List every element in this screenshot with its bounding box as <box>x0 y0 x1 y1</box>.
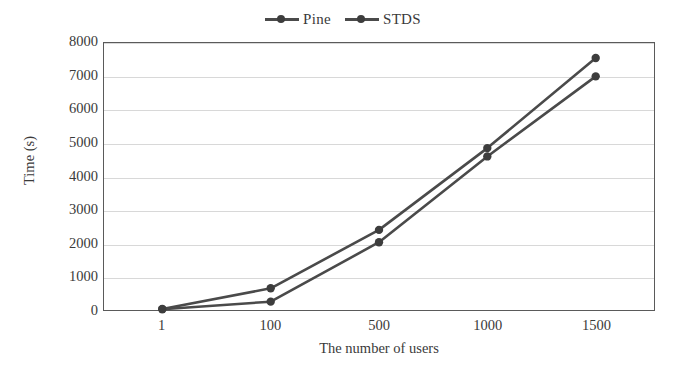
legend-label-pine: Pine <box>303 11 331 28</box>
legend-item-pine: Pine <box>265 11 331 28</box>
y-tick-label: 8000 <box>50 34 98 49</box>
data-point-marker <box>267 284 275 292</box>
chart-legend: Pine STDS <box>0 8 686 30</box>
x-tick-label: 1500 <box>582 318 611 333</box>
data-point-marker <box>267 297 275 305</box>
series-line-pine <box>162 58 595 309</box>
y-tick-label: 3000 <box>50 202 98 217</box>
data-point-marker <box>375 226 383 234</box>
y-tick-label: 7000 <box>50 68 98 83</box>
legend-item-stds: STDS <box>345 11 421 28</box>
data-point-marker <box>158 305 166 313</box>
y-tick-label: 0 <box>50 303 98 318</box>
x-tick-label: 1 <box>158 318 165 333</box>
x-tick-label: 100 <box>259 318 281 333</box>
line-chart: Pine STDS Time (s) 010002000300040005000… <box>0 0 686 367</box>
series-lines <box>104 43 654 310</box>
x-axis-title: The number of users <box>103 340 655 357</box>
y-axis-title: Time (s) <box>21 116 38 206</box>
data-point-marker <box>483 152 491 160</box>
legend-label-stds: STDS <box>383 11 421 28</box>
y-tick-label: 5000 <box>50 135 98 150</box>
y-tick-label: 2000 <box>50 236 98 251</box>
x-tick-label: 1000 <box>473 318 502 333</box>
data-point-marker <box>483 144 491 152</box>
data-point-marker <box>592 72 600 80</box>
x-axis-tick-labels: 110050010001500 <box>0 318 686 342</box>
legend-marker-icon <box>265 13 299 25</box>
y-axis-tick-labels: 010002000300040005000600070008000 <box>46 0 98 367</box>
y-tick-label: 4000 <box>50 169 98 184</box>
data-point-marker <box>592 54 600 62</box>
data-point-marker <box>375 238 383 246</box>
legend-marker-icon <box>345 13 379 25</box>
y-tick-label: 6000 <box>50 101 98 116</box>
x-tick-label: 500 <box>368 318 390 333</box>
y-tick-label: 1000 <box>50 269 98 284</box>
plot-area <box>103 42 655 311</box>
